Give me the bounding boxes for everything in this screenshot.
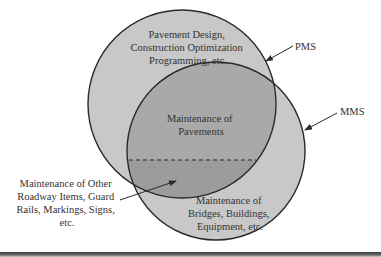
pms-arrow bbox=[266, 46, 293, 61]
pms-label: PMS bbox=[295, 41, 316, 52]
mms-arrow bbox=[305, 113, 337, 130]
bottom-border bbox=[0, 252, 381, 257]
mms-label: MMS bbox=[340, 106, 365, 117]
callout-label: Maintenance of Other Roadway Items, Guar… bbox=[17, 178, 118, 228]
mms-description: Maintenance of Bridges, Buildings, Equip… bbox=[188, 195, 272, 232]
venn-diagram: Pavement Design, Construction Optimizati… bbox=[0, 0, 381, 257]
